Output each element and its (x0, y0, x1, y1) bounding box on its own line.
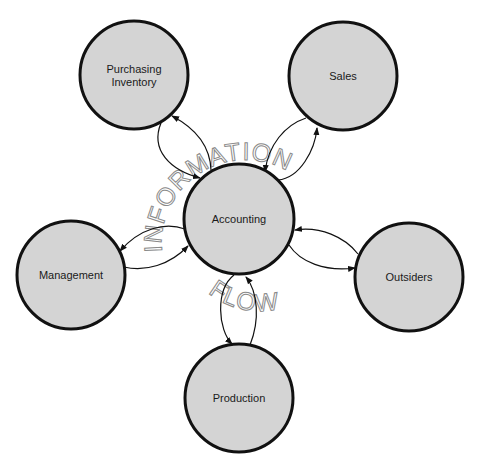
node-label: Accounting (212, 213, 266, 225)
node-production[interactable]: Production (185, 344, 293, 452)
node-management[interactable]: Management (17, 221, 125, 329)
node-label: Sales (329, 70, 357, 82)
node-label: Management (39, 269, 103, 281)
node-label: Production (213, 392, 266, 404)
edge-accounting-outsiders (289, 229, 358, 269)
node-label: Inventory (111, 76, 157, 88)
node-accounting[interactable]: Accounting (184, 164, 294, 274)
diagram-canvas: INFORMATION FLOW Purchasing Inventory Sa… (0, 0, 479, 465)
watermark-flow: FLOW (205, 274, 280, 317)
information-flow-diagram: INFORMATION FLOW Purchasing Inventory Sa… (0, 0, 479, 465)
node-label: Outsiders (385, 271, 433, 283)
node-label: Purchasing (106, 63, 161, 75)
node-purchasing-inventory[interactable]: Purchasing Inventory (80, 21, 188, 129)
node-outsiders[interactable]: Outsiders (355, 223, 463, 331)
node-sales[interactable]: Sales (289, 22, 397, 130)
